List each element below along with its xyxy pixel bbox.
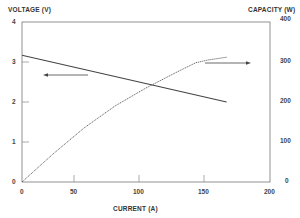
capacity-series-line — [22, 57, 227, 182]
y-left-tick-2: 2 — [12, 98, 16, 105]
y-left-tick-4: 4 — [12, 18, 16, 25]
x-ticks — [74, 175, 204, 182]
plot-frame — [22, 22, 270, 182]
voltage-series-line — [22, 55, 227, 102]
x-tick-50: 50 — [70, 188, 77, 195]
x-tick-0: 0 — [20, 188, 24, 195]
y-left-tick-1: 1 — [12, 138, 16, 145]
x-axis-label: CURRENT (A) — [113, 205, 158, 212]
right-axis-arrow-icon — [205, 61, 251, 64]
y-right-tick-100: 100 — [280, 137, 291, 144]
y-right-axis-label: CAPACITY (W) — [248, 6, 295, 13]
voltage-capacity-chart: VOLTAGE (V) CAPACITY (W) CURRENT (A) 4 3… — [0, 0, 300, 218]
left-axis-arrow-icon — [43, 73, 88, 76]
x-tick-150: 150 — [198, 188, 209, 195]
y-left-ticks — [22, 62, 29, 142]
y-left-tick-3: 3 — [12, 58, 16, 65]
y-left-axis-label: VOLTAGE (V) — [8, 6, 51, 13]
x-tick-100: 100 — [133, 188, 144, 195]
plot-svg — [0, 0, 300, 218]
x-tick-200: 200 — [264, 188, 275, 195]
y-right-tick-200: 200 — [280, 97, 291, 104]
y-left-tick-0: 0 — [12, 178, 16, 185]
y-right-tick-400: 400 — [280, 15, 291, 22]
y-right-tick-300: 300 — [280, 57, 291, 64]
y-right-tick-0: 0 — [285, 177, 289, 184]
